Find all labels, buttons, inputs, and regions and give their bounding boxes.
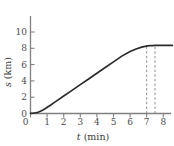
x-tick-label-6: 6 bbox=[127, 117, 133, 127]
chart-plot-area: 0 2 4 6 8 10 s (km) bbox=[0, 0, 174, 146]
x-axis-title: t (min) bbox=[77, 131, 109, 142]
x-axis-tick-labels: 0 1 2 3 4 5 6 7 8 bbox=[23, 117, 167, 127]
y-tick-label-10: 10 bbox=[16, 27, 28, 37]
x-tick-label-4: 4 bbox=[94, 117, 100, 127]
y-axis-title: s (km) bbox=[2, 57, 13, 87]
x-tick-label-0: 0 bbox=[23, 117, 29, 127]
x-tick-label-8: 8 bbox=[160, 117, 166, 127]
svg-text:s (km): s (km) bbox=[2, 57, 13, 87]
x-axis-title-unit: (min) bbox=[84, 131, 110, 142]
distance-time-chart: 0 2 4 6 8 10 s (km) bbox=[0, 0, 174, 146]
x-tick-label-2: 2 bbox=[61, 117, 67, 127]
y-tick-label-6: 6 bbox=[21, 60, 27, 70]
y-tick-label-4: 4 bbox=[21, 76, 27, 86]
y-axis-title-unit: (km) bbox=[2, 57, 13, 79]
x-tick-label-3: 3 bbox=[77, 117, 83, 127]
y-tick-label-8: 8 bbox=[21, 43, 27, 53]
y-tick-label-2: 2 bbox=[21, 92, 27, 102]
x-tick-label-5: 5 bbox=[111, 117, 117, 127]
x-tick-label-7: 7 bbox=[144, 117, 150, 127]
x-tick-label-1: 1 bbox=[44, 117, 50, 127]
